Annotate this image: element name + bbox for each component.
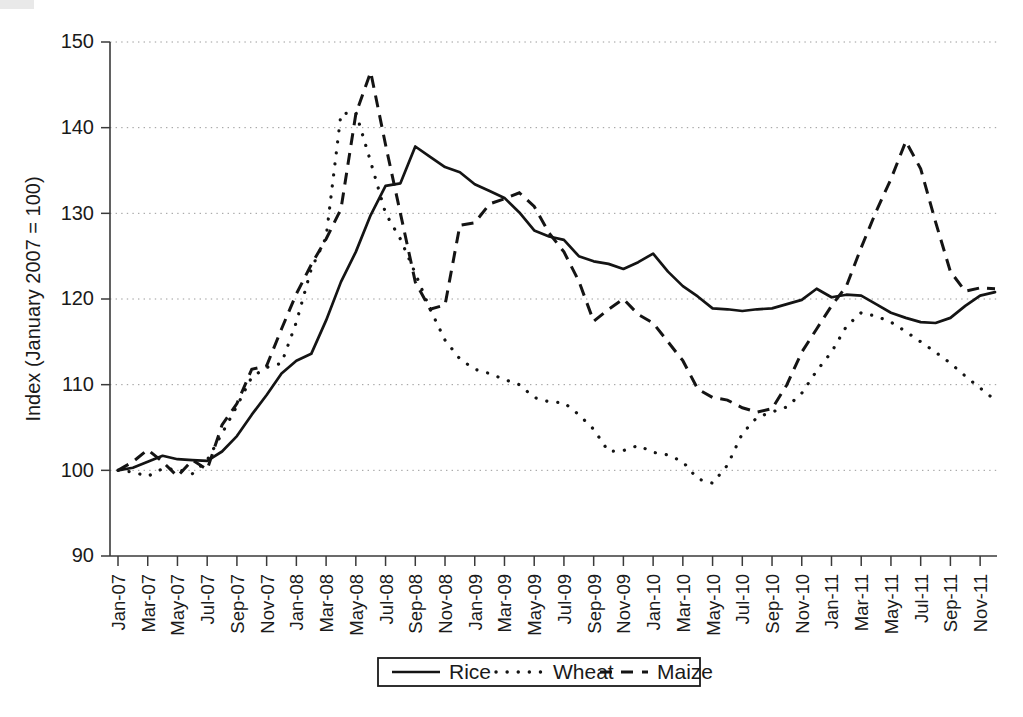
- x-tick-label: Jul-08: [376, 574, 397, 624]
- y-tick-label: 150: [61, 30, 94, 52]
- x-tick-label: Nov-07: [257, 574, 278, 634]
- y-tick-label: 100: [61, 459, 94, 481]
- x-tick-label: Mar-07: [138, 574, 159, 633]
- chart-legend: RiceWheatMaize: [378, 658, 713, 686]
- y-axis-ticks-group: 90100110120130140150: [61, 30, 110, 566]
- x-tick-label: Mar-08: [316, 574, 337, 633]
- x-tick-label: Sep-11: [940, 574, 961, 632]
- x-tick-label: Jan-11: [821, 574, 842, 629]
- x-tick-label: May-10: [703, 574, 724, 636]
- x-tick-label: Jul-09: [554, 574, 575, 624]
- x-tick-label: Jul-11: [911, 574, 932, 623]
- line-chart-figure: 90100110120130140150 Jan-07Mar-07May-07J…: [0, 0, 1023, 717]
- x-tick-label: Sep-07: [227, 574, 248, 634]
- x-tick-label: Mar-11: [851, 574, 872, 631]
- x-tick-label: Jul-10: [732, 574, 753, 624]
- series-line-rice: [118, 147, 995, 471]
- chart-container: 90100110120130140150 Jan-07Mar-07May-07J…: [0, 0, 1023, 717]
- x-tick-label: May-09: [524, 574, 545, 636]
- x-tick-label: Jul-07: [197, 574, 218, 624]
- x-tick-label: Jan-08: [286, 574, 307, 631]
- x-tick-label: Jan-10: [643, 574, 664, 631]
- gridlines-group: [110, 42, 997, 470]
- y-tick-label: 120: [61, 287, 94, 309]
- x-tick-label: May-11: [881, 574, 902, 634]
- x-tick-label: Sep-08: [405, 574, 426, 634]
- scan-artifact: [0, 0, 34, 9]
- x-tick-label: Sep-10: [762, 574, 783, 634]
- legend-label-maize: Maize: [657, 660, 713, 683]
- legend-label-rice: Rice: [449, 660, 491, 683]
- x-tick-label: Jan-07: [108, 574, 129, 631]
- x-tick-label: Sep-09: [584, 574, 605, 634]
- x-tick-label: Mar-10: [673, 574, 694, 633]
- y-tick-label: 110: [62, 373, 94, 395]
- x-tick-label: Nov-08: [435, 574, 456, 634]
- x-tick-label: Nov-11: [970, 574, 991, 632]
- y-tick-label: 90: [72, 544, 94, 566]
- x-tick-label: Jan-09: [465, 574, 486, 631]
- x-tick-label: Mar-09: [494, 574, 515, 633]
- x-tick-label: May-08: [346, 574, 367, 636]
- x-tick-label: Nov-09: [613, 574, 634, 634]
- x-tick-label: Nov-10: [792, 574, 813, 634]
- y-tick-label: 140: [61, 116, 94, 138]
- y-axis-title: Index (January 2007 = 100): [22, 176, 44, 421]
- data-series-group: [118, 72, 995, 483]
- x-tick-label: May-07: [167, 574, 188, 636]
- y-tick-label: 130: [61, 202, 94, 224]
- x-axis-ticks-group: Jan-07Mar-07May-07Jul-07Sep-07Nov-07Jan-…: [108, 556, 991, 636]
